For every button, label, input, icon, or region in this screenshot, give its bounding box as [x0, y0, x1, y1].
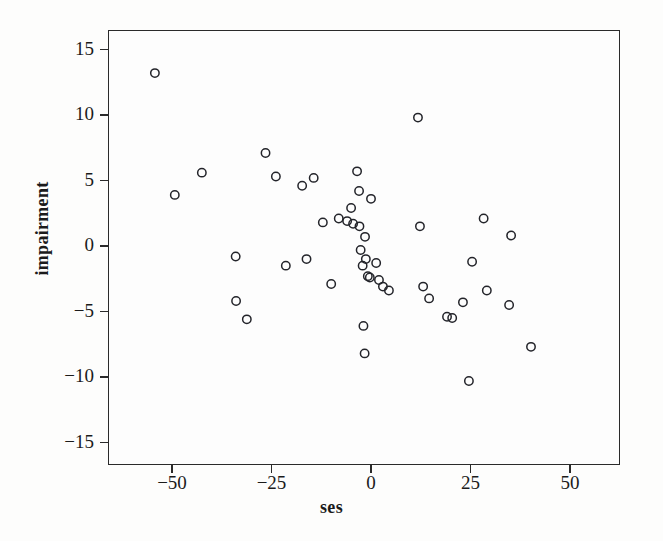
y-tick-mark	[100, 49, 108, 50]
x-tick-label: −25	[242, 472, 302, 494]
x-tick-label: 50	[540, 472, 600, 494]
y-tick-mark	[100, 442, 108, 443]
y-tick-mark	[100, 311, 108, 312]
x-axis-label: ses	[0, 497, 663, 518]
y-tick-label: −10	[34, 365, 94, 387]
y-tick-mark	[100, 376, 108, 377]
y-tick-mark	[100, 245, 108, 246]
x-tick-label: 0	[341, 472, 401, 494]
y-tick-mark	[100, 180, 108, 181]
y-tick-label: 10	[34, 103, 94, 125]
y-tick-mark	[100, 114, 108, 115]
y-axis-label: impairment	[32, 149, 53, 309]
y-tick-label: −15	[34, 431, 94, 453]
y-tick-label: 15	[34, 38, 94, 60]
plot-area-frame	[108, 30, 620, 465]
x-tick-label: 25	[441, 472, 501, 494]
scatter-plot-figure: 151050−5−10−15 −50−2502550 ses impairmen…	[0, 0, 663, 541]
x-tick-label: −50	[142, 472, 202, 494]
